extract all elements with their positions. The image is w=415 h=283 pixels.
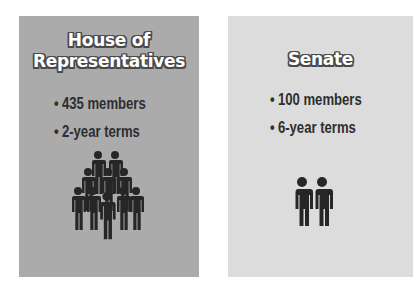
list-item: •100 members bbox=[270, 86, 362, 114]
bullet-icon: • bbox=[270, 114, 275, 142]
senate-title: Senate bbox=[228, 49, 413, 70]
house-title-line2: Representatives bbox=[19, 51, 199, 72]
senate-term-length: 6-year terms bbox=[278, 119, 356, 136]
senate-facts-list: •100 members •6-year terms bbox=[270, 86, 382, 142]
bullet-icon: • bbox=[54, 90, 59, 118]
bullet-icon: • bbox=[54, 118, 59, 146]
crowd-of-people-icon bbox=[69, 149, 149, 254]
house-title: House of Representatives bbox=[19, 30, 199, 72]
house-card: House of Representatives •435 members •2… bbox=[19, 16, 199, 277]
list-item: •435 members bbox=[54, 90, 146, 118]
senate-members-count: 100 members bbox=[278, 91, 362, 108]
house-term-length: 2-year terms bbox=[62, 123, 140, 140]
house-facts-list: •435 members •2-year terms bbox=[54, 90, 166, 146]
bullet-icon: • bbox=[270, 86, 275, 114]
two-people-icon bbox=[290, 176, 340, 228]
list-item: •6-year terms bbox=[270, 114, 362, 142]
house-title-line1: House of bbox=[19, 30, 199, 51]
senate-card: Senate •100 members •6-year terms bbox=[228, 16, 413, 277]
house-members-count: 435 members bbox=[62, 95, 146, 112]
list-item: •2-year terms bbox=[54, 118, 146, 146]
